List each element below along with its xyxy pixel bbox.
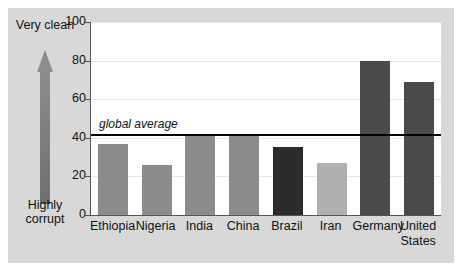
- x-axis-label: Nigeria: [134, 219, 178, 234]
- bar-slot[interactable]: [397, 22, 441, 215]
- y-axis-tick-labels: 020406080100: [52, 22, 86, 215]
- x-axis-label: Iran: [309, 219, 353, 234]
- bar-slot[interactable]: [222, 22, 266, 215]
- x-axis-label: India: [178, 219, 222, 234]
- bar-slot[interactable]: [266, 22, 310, 215]
- y-axis-tick-label: 60: [54, 91, 86, 105]
- x-axis-label: United States: [396, 219, 440, 249]
- bar[interactable]: [273, 147, 303, 215]
- x-axis-label: China: [221, 219, 265, 234]
- y-axis-tick-label: 80: [54, 53, 86, 67]
- bar[interactable]: [185, 136, 215, 215]
- global-average-label: global average: [99, 117, 178, 131]
- x-axis-label: Germany: [353, 219, 397, 234]
- bar[interactable]: [317, 163, 347, 215]
- global-average-line: [91, 134, 441, 136]
- plot-area: global average: [90, 22, 441, 216]
- bar-slot[interactable]: [310, 22, 354, 215]
- bar-slot[interactable]: [179, 22, 223, 215]
- x-axis-category-labels: EthiopiaNigeriaIndiaChinaBrazilIranGerma…: [90, 219, 440, 259]
- bar[interactable]: [142, 165, 172, 215]
- y-axis-tick: [85, 215, 91, 216]
- arrow-stem: [40, 70, 50, 204]
- bar[interactable]: [360, 61, 390, 215]
- up-arrow-icon: [37, 50, 53, 204]
- y-axis-tick-label: 0: [54, 207, 86, 221]
- bar[interactable]: [229, 136, 259, 215]
- x-axis-label: Brazil: [265, 219, 309, 234]
- arrow-head: [37, 50, 53, 72]
- chart-root: Very clean Highly corrupt 020406080100 g…: [0, 0, 462, 271]
- y-axis-tick-label: 100: [54, 14, 86, 28]
- bar-slot[interactable]: [354, 22, 398, 215]
- bar[interactable]: [404, 82, 434, 215]
- y-axis-tick-label: 20: [54, 168, 86, 182]
- bar[interactable]: [98, 144, 128, 215]
- y-axis-tick-label: 40: [54, 130, 86, 144]
- x-axis-label: Ethiopia: [90, 219, 134, 234]
